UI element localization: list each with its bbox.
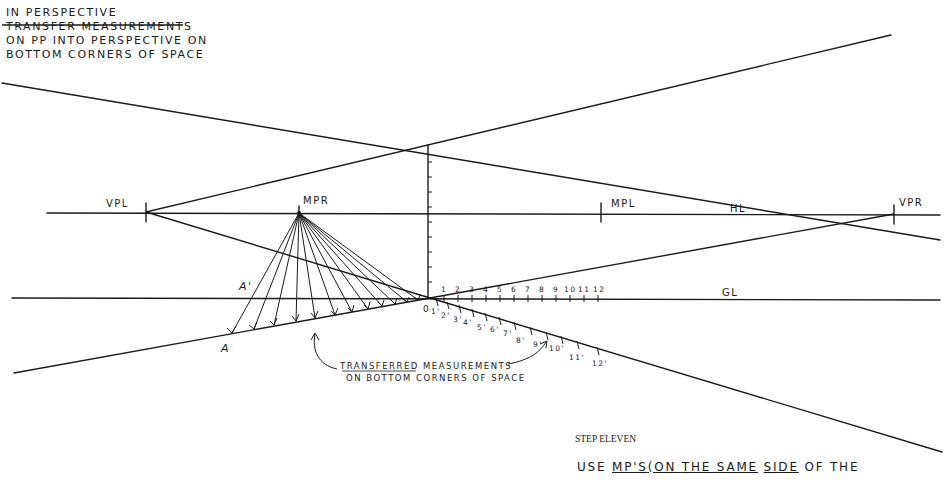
- label-a-prime: A': [238, 280, 253, 293]
- svg-text:6': 6': [490, 325, 500, 334]
- drawing-lines: VPL VPR MPR MPL HL GL A' A 0 1 2 3 4 5 6…: [0, 0, 950, 480]
- svg-text:2: 2: [455, 285, 461, 294]
- svg-text:11': 11': [569, 353, 585, 362]
- label-origin: 0: [423, 304, 430, 314]
- svg-text:8: 8: [539, 285, 545, 294]
- label-a: A: [220, 342, 230, 355]
- title-block: IN PERSPECTIVE TRANSFER MEASUREMENTS ON …: [6, 6, 208, 62]
- ceiling-line-left: [2, 83, 940, 240]
- step-label: STEP ELEVEN: [575, 434, 636, 444]
- title-line-1: TRANSFER MEASUREMENTS: [6, 20, 208, 34]
- svg-text:12: 12: [593, 285, 606, 294]
- label-mpl: MPL: [611, 198, 636, 209]
- label-gl: GL: [722, 287, 738, 298]
- gl-scale: 1 2 3 4 5 6 7 8 9 10 11 12: [441, 285, 606, 294]
- svg-text:8': 8': [516, 336, 526, 345]
- ceiling-line-right: [146, 35, 891, 212]
- svg-text:9': 9': [533, 340, 543, 349]
- svg-text:6: 6: [511, 285, 517, 294]
- annotation-arrow-left: [314, 334, 337, 369]
- svg-text:10': 10': [549, 344, 565, 353]
- label-vpl: VPL: [106, 198, 129, 209]
- horizon-line: [47, 213, 940, 215]
- mpr-point: [297, 211, 301, 215]
- svg-text:12': 12': [592, 359, 608, 368]
- svg-text:9: 9: [553, 285, 559, 294]
- svg-text:7': 7': [503, 329, 513, 338]
- svg-text:3: 3: [469, 285, 475, 294]
- svg-text:4: 4: [483, 285, 489, 294]
- svg-text:3': 3': [453, 315, 463, 324]
- vpl-to-origin: [146, 212, 430, 298]
- label-vpr: VPR: [899, 197, 923, 208]
- svg-text:2': 2': [441, 311, 451, 320]
- svg-text:5: 5: [497, 285, 503, 294]
- svg-text:1: 1: [441, 285, 447, 294]
- svg-text:ON BOTTOM CORNERS OF SPACE: ON BOTTOM CORNERS OF SPACE: [346, 373, 526, 383]
- transferred-measurements-note: TRANSFERRED MEASUREMENTS ON BOTTOM CORNE…: [339, 361, 526, 383]
- svg-text:10: 10: [564, 285, 577, 294]
- svg-text:TRANSFERRED MEASUREMENTS: TRANSFERRED MEASUREMENTS: [339, 361, 512, 371]
- step-instruction: USE MP'S(ON THE SAME SIDE OF THE: [577, 460, 859, 474]
- perspective-scale: 1' 2' 3' 4' 5' 6' 7' 8' 9' 10' 11' 12': [431, 307, 608, 368]
- title-heading: IN PERSPECTIVE: [6, 6, 208, 20]
- svg-text:1': 1': [431, 307, 441, 316]
- title-line-3: BOTTOM CORNERS OF SPACE: [6, 48, 208, 62]
- ground-line: [12, 298, 940, 300]
- perspective-diagram: VPL VPR MPR MPL HL GL A' A 0 1 2 3 4 5 6…: [0, 0, 950, 480]
- label-mpr: MPR: [303, 195, 329, 206]
- title-line-2: ON PP INTO PERSPECTIVE ON: [6, 34, 208, 48]
- svg-text:4': 4': [463, 318, 473, 327]
- svg-text:11: 11: [578, 285, 591, 294]
- svg-text:5': 5': [477, 323, 487, 332]
- svg-text:7: 7: [525, 285, 531, 294]
- label-hl: HL: [730, 203, 746, 214]
